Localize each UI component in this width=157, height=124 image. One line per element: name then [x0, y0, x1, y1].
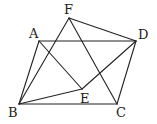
label-E: E: [80, 91, 90, 106]
segment-FC: [69, 18, 117, 104]
segment-BF: [19, 18, 69, 104]
segment-AE: [39, 41, 82, 89]
label-D: D: [138, 27, 148, 42]
segment-BE: [19, 89, 82, 104]
label-F: F: [64, 2, 73, 17]
point-labels: A B C D E F: [8, 2, 148, 120]
geometry-diagram: A B C D E F: [0, 0, 157, 124]
segment-CD: [117, 41, 136, 104]
segment-AB: [19, 41, 39, 104]
segment-FD: [69, 18, 136, 41]
label-B: B: [8, 105, 18, 120]
label-C: C: [116, 105, 126, 120]
segment-DE: [82, 41, 136, 89]
label-A: A: [28, 26, 39, 41]
